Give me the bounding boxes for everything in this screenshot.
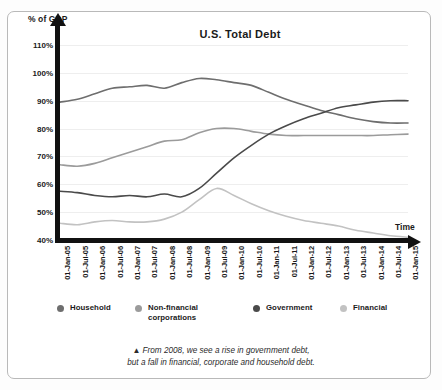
x-tick-label: 01-Jan-09 [203, 246, 212, 280]
x-tick-label: 01-Jul-12 [324, 246, 333, 278]
series-line [60, 128, 408, 166]
x-tick-label: 01-Jul-09 [220, 246, 229, 278]
y-axis-arrow-icon [50, 13, 66, 26]
legend-swatch-icon [253, 305, 260, 312]
series-line [60, 101, 408, 197]
x-axis [55, 238, 410, 243]
y-tick-label: 60% [37, 180, 53, 189]
x-tick-label: 01-Jul-05 [81, 246, 90, 278]
legend-label: Government [266, 303, 312, 313]
x-tick-label: 01-Jan-15 [411, 246, 420, 280]
x-axis-label: Time [395, 222, 415, 232]
x-tick-label: 01-Jul-14 [394, 246, 403, 278]
x-tick-label: 01-Jan-07 [133, 246, 142, 280]
x-tick-label: 01-Jul-11 [290, 246, 299, 277]
legend-swatch-icon [57, 305, 64, 312]
chart-page: % of GDP U.S. Total Debt 110%100%90%80%7… [0, 0, 442, 390]
y-tick-label: 40% [37, 236, 53, 245]
chart-caption: ▲ From 2008, we see a rise in government… [0, 345, 442, 369]
legend-label: Household [70, 303, 111, 313]
y-tick-label: 100% [33, 68, 53, 77]
caption-line-1: From 2008, we see a rise in government d… [143, 346, 310, 355]
series-lines [60, 45, 408, 240]
y-tick-label: 80% [37, 124, 53, 133]
caption-triangle-icon: ▲ [132, 346, 140, 355]
chart-title: U.S. Total Debt [0, 28, 442, 40]
y-tick-label: 50% [37, 208, 53, 217]
y-tick-label: 90% [37, 96, 53, 105]
legend-swatch-icon [340, 305, 347, 312]
y-tick-label: 70% [37, 152, 53, 161]
x-tick-label: 01-Jan-06 [98, 246, 107, 280]
series-line [60, 78, 408, 123]
y-axis [55, 24, 60, 242]
x-tick-label: 01-Jan-11 [272, 246, 281, 279]
legend-item[interactable]: Non-financial corporations [135, 303, 240, 322]
x-tick-label: 01-Jul-06 [116, 246, 125, 278]
x-tick-label: 01-Jan-14 [377, 246, 386, 280]
legend-item[interactable]: Government [253, 303, 348, 313]
x-tick-label: 01-Jan-08 [168, 246, 177, 280]
x-tick-label: 01-Jul-13 [359, 246, 368, 278]
legend-label: Financial [353, 303, 387, 313]
x-tick-label: 01-Jul-10 [255, 246, 264, 278]
series-line [60, 188, 408, 237]
x-tick-label: 01-Jul-08 [185, 246, 194, 278]
caption-line-2: but a fall in financial, corporate and h… [127, 358, 315, 367]
x-tick-labels: 01-Jan-0501-Jul-0501-Jan-0601-Jul-0601-J… [60, 246, 408, 302]
chart-area: % of GDP U.S. Total Debt 110%100%90%80%7… [0, 0, 442, 260]
legend-item[interactable]: Financial [340, 303, 430, 313]
legend-swatch-icon [135, 305, 142, 312]
y-tick-label: 110% [33, 41, 53, 50]
legend-label: Non-financial corporations [148, 303, 240, 322]
x-tick-label: 01-Jan-05 [63, 246, 72, 280]
x-tick-label: 01-Jan-10 [237, 246, 246, 280]
chart-legend: HouseholdNon-financial corporationsGover… [0, 303, 442, 331]
plot-area: 110%100%90%80%70%60%50%40% [60, 45, 408, 240]
x-tick-label: 01-Jan-12 [307, 246, 316, 280]
x-tick-label: 01-Jul-07 [150, 246, 159, 278]
x-tick-label: 01-Jan-13 [342, 246, 351, 280]
